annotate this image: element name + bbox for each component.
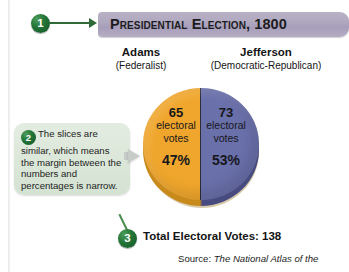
slice-unit-jefferson-line2: votes	[201, 132, 251, 145]
source-credit: Source: The National Atlas of the	[178, 253, 318, 264]
callout-marker-2: 2	[21, 130, 36, 145]
slice-value-jefferson: 73	[201, 106, 251, 119]
slice-unit-jefferson-line1: electoral	[201, 119, 251, 132]
leader-line-1	[49, 22, 91, 24]
callout-body-text: The slices are similar, which means the …	[21, 128, 121, 191]
callout-marker-3: 3	[118, 229, 137, 248]
page-title: Presidential Election, 1800	[110, 12, 287, 37]
legend-label-jefferson-party: (Democratic-Republican)	[184, 59, 348, 73]
total-label: Total Electoral Votes:	[143, 230, 262, 242]
slice-percent-adams: 47%	[151, 154, 201, 167]
pie-chart: 65 electoral votes 73 electoral votes 47…	[143, 88, 259, 208]
legend-item-adams: Adams (Federalist)	[98, 45, 184, 73]
slice-label-adams: 65 electoral votes	[151, 106, 201, 145]
callout-box-2: 2The slices are similar, which means the…	[14, 123, 130, 195]
leader-arrowhead-1	[89, 18, 97, 28]
chart-title-banner: Presidential Election, 1800	[98, 12, 349, 37]
source-prefix: Source:	[178, 253, 214, 264]
legend-label-adams-name: Adams	[98, 45, 184, 59]
slice-label-jefferson: 73 electoral votes	[201, 106, 251, 145]
source-title: The National Atlas of the	[214, 253, 319, 264]
total-electoral-votes: Total Electoral Votes: 138	[143, 230, 281, 242]
slice-unit-adams-line2: votes	[151, 132, 201, 145]
legend-label-adams-party: (Federalist)	[98, 59, 184, 73]
slice-unit-adams-line1: electoral	[151, 119, 201, 132]
infographic-page: 1 Presidential Election, 1800 Adams (Fed…	[0, 0, 349, 272]
legend-label-jefferson-name: Jefferson	[184, 45, 348, 59]
legend-item-jefferson: Jefferson (Democratic-Republican)	[184, 45, 348, 73]
callout-text-2: 2The slices are similar, which means the…	[21, 128, 125, 191]
callout-marker-1: 1	[31, 14, 50, 33]
page-edge-artifact	[8, 0, 10, 272]
slice-percent-jefferson: 53%	[201, 154, 251, 167]
slice-value-adams: 65	[151, 106, 201, 119]
callout-pointer-arrow	[128, 149, 140, 163]
total-value: 138	[262, 230, 281, 242]
